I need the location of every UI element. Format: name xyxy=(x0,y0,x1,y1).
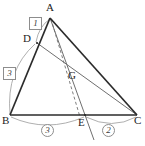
ratio-label-db: 3 xyxy=(3,67,16,80)
arc-ec xyxy=(86,117,136,124)
point-label-d: D xyxy=(23,33,31,44)
ratio-label-ad: 1 xyxy=(29,17,42,30)
geometry-diagram: A B C D E G 1 3 3 2 xyxy=(0,0,145,146)
point-label-a: A xyxy=(46,2,54,13)
point-label-c: C xyxy=(134,115,141,126)
ratio-label-be: 3 xyxy=(41,124,54,137)
point-d-dot xyxy=(36,42,38,44)
vertex-dots xyxy=(36,42,86,116)
point-label-g: G xyxy=(68,70,76,81)
side-ac xyxy=(50,18,137,115)
cevians xyxy=(37,18,137,140)
ratio-label-ec: 2 xyxy=(102,124,115,137)
point-label-e: E xyxy=(78,117,85,128)
point-label-b: B xyxy=(2,115,9,126)
segment-dc xyxy=(37,43,137,115)
segment-ae xyxy=(50,18,85,115)
